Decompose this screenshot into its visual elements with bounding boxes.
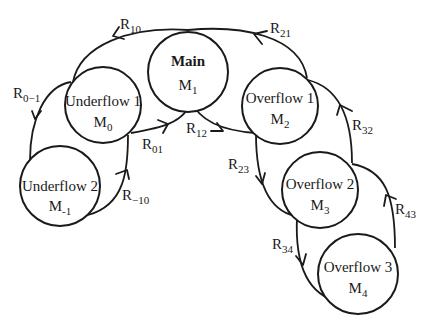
- node-overflow-2: Overflow 2 M3: [282, 152, 358, 228]
- svg-text:R01: R01: [142, 136, 163, 155]
- svg-text:R34: R34: [272, 236, 294, 255]
- edge-label-r-10: R: [122, 187, 132, 203]
- edge-label-r12: R: [186, 120, 196, 136]
- node-label: Main: [171, 53, 206, 69]
- node-underflow-1: Underflow 1 M0: [65, 67, 141, 143]
- state-diagram: R10 R21 R0−1 R01 R12 R−10 R32 R2: [0, 0, 434, 325]
- edge-label-r0-1: R: [13, 85, 23, 101]
- node-label: Underflow 1: [65, 93, 141, 109]
- svg-text:R12: R12: [186, 120, 207, 139]
- node-underflow-2: Underflow 2 M-1: [20, 146, 100, 226]
- node-label: Overflow 1: [246, 90, 315, 106]
- svg-text:R21: R21: [270, 20, 291, 39]
- node-label: Overflow 3: [324, 259, 393, 275]
- node-overflow-3: Overflow 3 M4: [318, 234, 398, 314]
- node-overflow-1: Overflow 1 M2: [242, 68, 318, 144]
- edge-label-r10: R: [120, 16, 130, 32]
- svg-text:R10: R10: [120, 16, 142, 35]
- svg-text:R−10: R−10: [122, 187, 150, 206]
- svg-text:R43: R43: [395, 201, 417, 220]
- node-label: Overflow 2: [286, 176, 355, 192]
- svg-text:R0−1: R0−1: [13, 85, 40, 104]
- edge-r32: R32: [308, 80, 373, 163]
- node-main: Main M1: [148, 32, 228, 112]
- edge-label-r43: R: [395, 201, 405, 217]
- svg-text:R23: R23: [228, 156, 250, 175]
- svg-text:R32: R32: [352, 117, 373, 136]
- arrow-head-icon: [254, 31, 267, 44]
- edge-label-r01: R: [142, 136, 152, 152]
- edge-label-r23: R: [228, 156, 238, 172]
- edge-label-r34: R: [272, 236, 282, 252]
- edge-label-r32: R: [352, 117, 362, 133]
- node-label: Underflow 2: [22, 178, 98, 194]
- edge-label-r21: R: [270, 20, 280, 36]
- arrow-head-icon: [116, 170, 129, 179]
